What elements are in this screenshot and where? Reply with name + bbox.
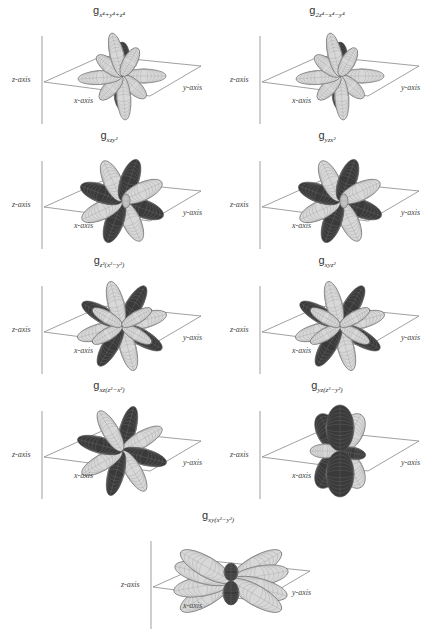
y-axis-label: y-axis xyxy=(183,83,202,92)
orbital-plot xyxy=(218,125,436,250)
x-axis-label: x-axis xyxy=(292,96,311,105)
x-axis-label: x-axis xyxy=(292,221,311,230)
z-axis-label: z-axis xyxy=(230,325,249,334)
orbital-panel-g-2z4-x4-y4: g2z⁴−x⁴−y⁴ z-axis x-axis y-axis xyxy=(218,0,436,125)
orbital-panel-g-x4y4z4: gx⁴+y⁴+z⁴ z-axis x-axis y-axis xyxy=(0,0,218,125)
orbital-plot xyxy=(218,250,436,375)
orbital-panel-g-yzx2: gyzx² z-axis x-axis y-axis xyxy=(218,125,436,250)
z-axis-label: z-axis xyxy=(230,450,249,459)
orbital-plot xyxy=(0,375,218,500)
orbital-panel-g-yzz2-y2: gyz(z²−y²) z-axis x-axis y-axis xyxy=(218,375,436,500)
z-axis-label: z-axis xyxy=(12,200,31,209)
y-axis-label: y-axis xyxy=(183,333,202,342)
y-axis-label: y-axis xyxy=(401,333,420,342)
orbital-panel-g-z2x2-y2: gz²(x²−y²) z-axis x-axis y-axis xyxy=(0,250,218,375)
x-axis-label: x-axis xyxy=(292,471,311,480)
y-axis-label: y-axis xyxy=(401,83,420,92)
x-axis-label: x-axis xyxy=(74,471,93,480)
z-axis-label: z-axis xyxy=(12,450,31,459)
orbital-plot xyxy=(109,505,327,630)
z-axis-label: z-axis xyxy=(230,200,249,209)
orbital-plot xyxy=(0,250,218,375)
orbital-plot xyxy=(0,125,218,250)
x-axis-label: x-axis xyxy=(292,346,311,355)
orbital-plot xyxy=(218,0,436,125)
orbital-panel-g-xzy2: gxzy² z-axis x-axis y-axis xyxy=(0,125,218,250)
orbital-plot xyxy=(218,375,436,500)
orbital-panel-g-xyz2: gxyz² z-axis x-axis y-axis xyxy=(218,250,436,375)
y-axis-label: y-axis xyxy=(292,588,311,597)
z-axis-label: z-axis xyxy=(12,75,31,84)
x-axis-label: x-axis xyxy=(74,346,93,355)
y-axis-label: y-axis xyxy=(401,458,420,467)
y-axis-label: y-axis xyxy=(183,208,202,217)
orbital-panel-g-xyx2-y2: gxy(x²−y²) z-axis x-axis y-axis xyxy=(109,505,327,630)
y-axis-label: y-axis xyxy=(401,208,420,217)
y-axis-label: y-axis xyxy=(183,458,202,467)
z-axis-label: z-axis xyxy=(230,75,249,84)
x-axis-label: x-axis xyxy=(183,601,202,610)
orbital-plot xyxy=(0,0,218,125)
x-axis-label: x-axis xyxy=(74,96,93,105)
orbital-panel-g-xzz2-x2: gxz(z²−x²) z-axis x-axis y-axis xyxy=(0,375,218,500)
z-axis-label: z-axis xyxy=(121,580,140,589)
z-axis-label: z-axis xyxy=(12,325,31,334)
x-axis-label: x-axis xyxy=(74,221,93,230)
